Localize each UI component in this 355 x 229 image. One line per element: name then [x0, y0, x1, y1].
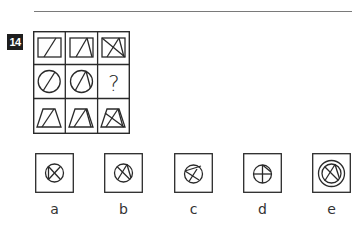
option-e-label[interactable]: e — [312, 201, 351, 217]
option-d-label[interactable]: d — [243, 201, 282, 217]
cell-r3c2-trapezoid-peak — [69, 109, 93, 127]
option-a-label[interactable]: a — [35, 201, 74, 217]
missing-cell-question-mark: ? — [108, 71, 120, 96]
cell-r3c1-trapezoid-one-line — [37, 109, 61, 127]
option-c-label[interactable]: c — [174, 201, 213, 217]
cell-r2c2-circle-peak — [71, 71, 93, 93]
cell-r3c3-trapezoid-cross — [101, 109, 125, 127]
cell-r1c3-rect-cross — [102, 38, 125, 57]
top-divider — [34, 11, 352, 12]
cell-r2c1-circle-one-line — [38, 71, 60, 93]
question-number-badge: 14 — [7, 34, 23, 50]
option-d-figure[interactable] — [243, 153, 282, 193]
cell-r2c2-rect-peak — [70, 38, 93, 57]
puzzle-grid: ? — [33, 31, 130, 134]
option-b-label[interactable]: b — [104, 201, 143, 217]
option-b-figure[interactable] — [104, 153, 143, 193]
cell-r1c1-rect-one-line — [38, 38, 61, 57]
option-e-figure[interactable] — [312, 153, 351, 193]
option-a-figure[interactable] — [35, 153, 74, 193]
option-c-figure[interactable] — [174, 153, 213, 193]
